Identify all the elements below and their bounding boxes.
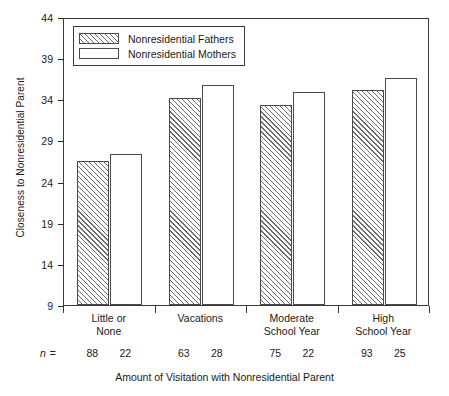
bar-mothers — [385, 78, 417, 305]
y-axis-tick-label: 29 — [29, 136, 53, 146]
y-axis-tick-label: 34 — [29, 95, 53, 105]
legend-item-mothers: Nonresidential Mothers — [79, 46, 236, 61]
legend-label-fathers: Nonresidential Fathers — [128, 33, 234, 45]
y-axis-tick-label: 44 — [29, 13, 53, 23]
legend: Nonresidential Fathers Nonresidential Mo… — [73, 26, 245, 66]
y-axis-tick-label: 39 — [29, 54, 53, 64]
legend-item-fathers: Nonresidential Fathers — [79, 31, 236, 46]
category-label-line: None — [54, 325, 164, 338]
y-axis-tick-label: 9 — [29, 301, 53, 311]
bar-fathers — [352, 90, 384, 305]
bar-chart-figure: Closeness to Nonresidential Parent 44393… — [0, 0, 449, 396]
legend-swatch-mothers-icon — [79, 48, 119, 59]
x-axis-title: Amount of Visitation with Nonresidential… — [0, 371, 449, 383]
n-value-mothers: 22 — [291, 347, 325, 359]
legend-swatch-fathers-icon — [79, 33, 119, 44]
n-value-fathers: 63 — [167, 347, 201, 359]
category-label-line: School Year — [328, 325, 438, 338]
y-axis-tick-label: 14 — [29, 260, 53, 270]
n-value-fathers: 75 — [258, 347, 292, 359]
n-value-mothers: 25 — [383, 347, 417, 359]
n-value-mothers: 22 — [108, 347, 142, 359]
x-axis-category-label: HighSchool Year — [328, 312, 438, 337]
legend-label-mothers: Nonresidential Mothers — [128, 48, 236, 60]
n-value-mothers: 28 — [200, 347, 234, 359]
bar-fathers — [169, 98, 201, 305]
bar-mothers — [202, 85, 234, 305]
n-value-fathers: 93 — [350, 347, 384, 359]
n-value-fathers: 88 — [75, 347, 109, 359]
bar-mothers — [110, 154, 142, 305]
n-row-label: n = — [40, 347, 56, 359]
bar-fathers — [260, 105, 292, 305]
y-axis-title: Closeness to Nonresidential Parent — [15, 28, 26, 288]
bar-mothers — [293, 92, 325, 305]
y-axis-tick-label: 19 — [29, 219, 53, 229]
category-label-line: High — [328, 312, 438, 325]
n-equals-sign: = — [46, 347, 56, 359]
y-axis-tick-label: 24 — [29, 178, 53, 188]
bar-fathers — [77, 161, 109, 305]
